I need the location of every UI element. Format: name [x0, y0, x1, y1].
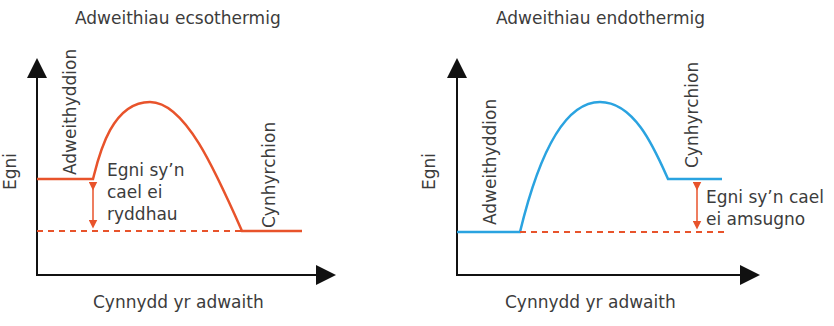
energy-released-label-line-3: ryddhau — [107, 204, 178, 224]
energy-released-label-line-1: Egni sy’n — [107, 160, 185, 180]
reactants-label: Adweithyddion — [62, 49, 79, 175]
energy-absorbed-label-line-2: ei amsugno — [706, 209, 805, 229]
products-label: Cynhyrchion — [684, 62, 701, 168]
products-label: Cynhyrchion — [261, 122, 278, 228]
exothermic-title: Adweithiau ecsothermig — [75, 8, 281, 28]
endothermic-title: Adweithiau endothermig — [496, 8, 705, 28]
endothermic-diagram — [456, 68, 750, 275]
reactants-label: Adweithyddion — [482, 99, 499, 225]
y-axis-label: Egni — [421, 153, 438, 190]
x-axis-label: Cynnydd yr adwaith — [505, 292, 676, 312]
y-axis-label: Egni — [2, 153, 19, 190]
energy-absorbed-label-line-1: Egni sy’n cael — [706, 187, 824, 207]
x-axis-label: Cynnydd yr adwaith — [93, 292, 264, 312]
energy-released-label-line-2: cael ei — [107, 182, 163, 202]
